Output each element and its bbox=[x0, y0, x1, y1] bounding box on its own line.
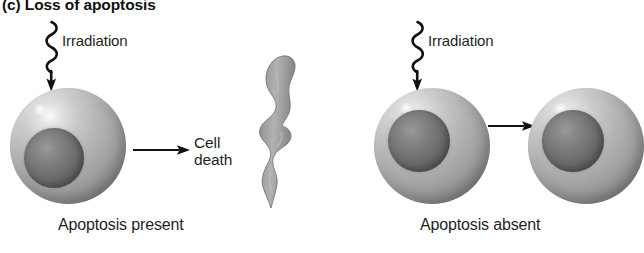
cell-nucleus bbox=[388, 110, 450, 172]
wavy-irradiation-arrow-icon bbox=[38, 20, 68, 92]
wavy-irradiation-arrow-icon-right bbox=[404, 20, 434, 92]
cell-nucleus bbox=[542, 110, 604, 172]
surviving-cell bbox=[528, 88, 644, 204]
irradiation-label-right: Irradiation bbox=[428, 32, 494, 49]
apoptotic-body bbox=[252, 54, 314, 210]
caption-apoptosis-absent: Apoptosis absent bbox=[420, 216, 540, 234]
caption-apoptosis-present: Apoptosis present bbox=[58, 216, 184, 234]
right-arrow-icon-left-panel bbox=[133, 143, 191, 157]
figure-title: (c) Loss of apoptosis bbox=[2, 0, 156, 14]
cell-death-label: Cell death bbox=[194, 134, 252, 168]
irradiated-cell bbox=[374, 88, 490, 204]
intact-cell bbox=[10, 88, 126, 204]
cell-highlight bbox=[32, 104, 48, 115]
cell-nucleus bbox=[24, 128, 84, 188]
irradiation-label-left: Irradiation bbox=[62, 32, 128, 49]
